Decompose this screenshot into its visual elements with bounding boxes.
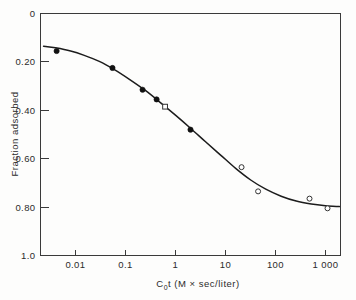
x-tick-label: 10	[220, 259, 231, 270]
y-tick-label: 0.20	[15, 56, 35, 67]
x-tick-label: 0.1	[118, 259, 132, 270]
data-point-open	[256, 189, 261, 194]
y-axis-title-group: Fraction adsorbed	[9, 91, 20, 176]
figure-container: 0.010.11101001 000 00.200.400.600.801.0 …	[0, 0, 356, 300]
data-point-open-square	[163, 104, 168, 109]
y-axis-ticks	[41, 62, 49, 207]
x-axis-ticks	[75, 250, 325, 256]
x-tick-label: 1 000	[313, 259, 339, 270]
data-point-filled	[110, 65, 115, 70]
axis-frame	[41, 14, 341, 256]
data-point-filled	[140, 87, 145, 92]
x-axis-title: C0t (M × sec/liter)	[156, 278, 239, 291]
adsorption-chart: 0.010.11101001 000 00.200.400.600.801.0 …	[0, 0, 356, 300]
fitted-curve-group	[44, 46, 340, 206]
x-tick-label: 0.01	[65, 259, 85, 270]
x-tick-label: 100	[267, 259, 284, 270]
x-tick-label: 1	[173, 259, 179, 270]
x-tick-labels: 0.010.11101001 000	[65, 259, 338, 270]
y-tick-label: 0.80	[15, 202, 35, 213]
y-axis-title: Fraction adsorbed	[9, 91, 20, 176]
data-point-filled	[54, 48, 59, 53]
data-point-open	[239, 165, 244, 170]
fitted-curve	[44, 46, 340, 206]
data-point-open	[307, 196, 312, 201]
plot-frame	[41, 14, 341, 256]
data-point-filled	[154, 97, 159, 102]
y-tick-label: 1.0	[21, 250, 35, 261]
data-points-group	[54, 48, 330, 210]
data-point-filled	[188, 127, 193, 132]
y-tick-label: 0	[30, 8, 36, 19]
data-point-open	[325, 206, 330, 211]
x-axis-title-group: C0t (M × sec/liter)	[156, 278, 239, 291]
